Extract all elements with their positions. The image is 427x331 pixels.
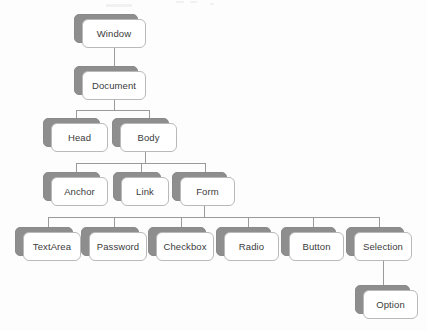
card-face: Document <box>82 71 146 100</box>
card-face: Radio <box>224 232 279 261</box>
card-face: Button <box>289 232 344 261</box>
node-label: Form <box>196 187 219 197</box>
card-face: Body <box>120 123 177 152</box>
node-button[interactable]: Button <box>281 227 336 256</box>
node-radio[interactable]: Radio <box>216 227 271 256</box>
node-label: Option <box>376 300 405 310</box>
node-password[interactable]: Password <box>81 227 139 256</box>
card-face: Option <box>363 290 418 319</box>
node-window[interactable]: Window <box>74 14 138 43</box>
node-document[interactable]: Document <box>74 66 138 95</box>
node-label: Button <box>302 242 330 252</box>
node-checkbox[interactable]: Checkbox <box>148 227 206 256</box>
node-label: Selection <box>363 242 403 252</box>
card-face: Window <box>82 19 146 48</box>
card-face: Head <box>51 123 108 152</box>
card-face: Selection <box>354 232 412 261</box>
node-label: Radio <box>239 242 264 252</box>
node-label: Link <box>136 187 154 197</box>
node-label: Head <box>68 133 91 143</box>
node-selection[interactable]: Selection <box>346 227 404 256</box>
node-label: Anchor <box>64 187 95 197</box>
hierarchy-diagram: Window Document Head Body Anchor Link <box>0 0 427 331</box>
node-label: Document <box>92 81 136 91</box>
node-anchor[interactable]: Anchor <box>43 172 100 201</box>
card-face: Link <box>121 177 169 206</box>
node-option[interactable]: Option <box>355 285 410 314</box>
node-label: Window <box>97 29 131 39</box>
node-textarea[interactable]: TextArea <box>15 227 73 256</box>
node-link[interactable]: Link <box>113 172 161 201</box>
node-head[interactable]: Head <box>43 118 100 147</box>
card-face: TextArea <box>23 232 81 261</box>
node-label: Checkbox <box>163 242 206 252</box>
node-label: Body <box>137 133 159 143</box>
connector-lines <box>0 0 427 331</box>
card-face: Password <box>89 232 147 261</box>
node-form[interactable]: Form <box>172 172 227 201</box>
card-face: Form <box>180 177 235 206</box>
node-body[interactable]: Body <box>112 118 169 147</box>
card-face: Checkbox <box>156 232 214 261</box>
node-label: Password <box>97 242 140 252</box>
card-face: Anchor <box>51 177 108 206</box>
node-label: TextArea <box>33 242 71 252</box>
